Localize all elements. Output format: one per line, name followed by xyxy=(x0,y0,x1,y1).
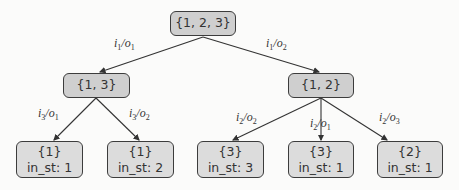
edge-label-12-leaf3: i2/o2 xyxy=(236,110,257,126)
edge-12-to-leaf5 xyxy=(321,98,387,140)
node-1-2: {1, 2} xyxy=(288,73,354,98)
edge-root-to-12 xyxy=(203,37,319,72)
leaf-state: in_st: 3 xyxy=(198,160,263,176)
leaf-set: {2} xyxy=(378,144,442,160)
edge-label-12-leaf4: i2/o1 xyxy=(310,116,331,132)
leaf-node-4: {3} in_st: 1 xyxy=(288,141,354,178)
node-root-label: {1, 2, 3} xyxy=(175,15,231,30)
node-1-2-label: {1, 2} xyxy=(301,77,341,92)
leaf-set: {3} xyxy=(198,144,263,160)
leaf-set: {3} xyxy=(289,144,353,160)
edge-label-root-12: i1/o2 xyxy=(266,36,287,52)
edge-label-12-leaf5: i2/o3 xyxy=(379,110,400,126)
leaf-node-2: {1} in_st: 2 xyxy=(107,141,174,178)
leaf-node-3: {3} in_st: 3 xyxy=(197,141,264,178)
edge-label-13-leaf1: i3/o1 xyxy=(38,106,59,122)
leaf-state: in_st: 1 xyxy=(289,160,353,176)
leaf-state: in_st: 1 xyxy=(17,160,82,176)
leaf-set: {1} xyxy=(108,144,173,160)
edge-13-to-leaf1 xyxy=(54,98,96,140)
leaf-node-5: {2} in_st: 1 xyxy=(377,141,443,178)
node-1-3-label: {1, 3} xyxy=(77,77,117,92)
node-1-3: {1, 3} xyxy=(63,73,130,98)
leaf-state: in_st: 1 xyxy=(378,160,442,176)
edge-label-root-13: i1/o1 xyxy=(114,36,135,52)
leaf-set: {1} xyxy=(17,144,82,160)
leaf-state: in_st: 2 xyxy=(108,160,173,176)
leaf-node-1: {1} in_st: 1 xyxy=(16,141,83,178)
node-root: {1, 2, 3} xyxy=(170,11,236,36)
edge-label-13-leaf2: i3/o2 xyxy=(129,106,150,122)
